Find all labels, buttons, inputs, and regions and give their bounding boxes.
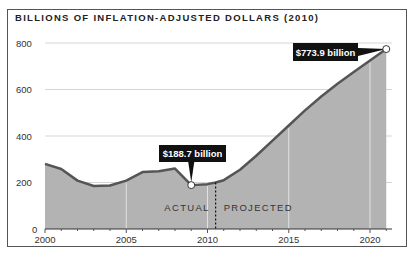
- area-chart: 020040060080020002005201020152020ACTUALP…: [0, 0, 414, 254]
- data-point-marker: [383, 46, 390, 53]
- x-tick-label: 2020: [359, 234, 380, 245]
- callout-label: $188.7 billion: [163, 148, 223, 159]
- y-tick-label: 0: [32, 224, 37, 235]
- y-tick-label: 200: [16, 177, 32, 188]
- x-tick-label: 2000: [34, 234, 55, 245]
- area-fill: [45, 49, 386, 229]
- x-tick-label: 2015: [278, 234, 299, 245]
- y-tick-label: 800: [16, 38, 32, 49]
- x-tick-label: 2010: [197, 234, 218, 245]
- callout-label: $773.9 billion: [296, 47, 356, 58]
- x-tick-label: 2005: [116, 234, 137, 245]
- callout-pointer: [188, 162, 194, 182]
- projected-label: PROJECTED: [224, 202, 293, 213]
- actual-label: ACTUAL: [164, 202, 209, 213]
- y-tick-label: 600: [16, 84, 32, 95]
- data-point-marker: [188, 182, 195, 189]
- y-tick-label: 400: [16, 131, 32, 142]
